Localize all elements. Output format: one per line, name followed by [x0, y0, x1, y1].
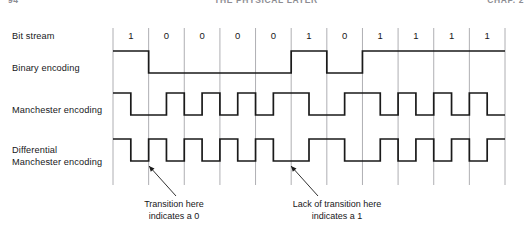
leader-line [149, 166, 176, 196]
waveform-manchester-encoding [113, 93, 505, 115]
figure-root: 94 THE PHYSICAL LAYER CHAP. 2 Bit stream… [0, 0, 532, 238]
annotation-transition-indicates-zero: Transition here indicates a 0 [116, 199, 232, 222]
annotation-leader-one [291, 166, 318, 196]
annotation-leader-zero [149, 166, 176, 196]
waveform-binary-encoding [113, 51, 505, 73]
annotation-lack-of-transition-indicates-one: Lack of transition here indicates a 1 [262, 199, 412, 222]
waveform-differential-manchester-encoding [113, 139, 505, 161]
leader-line [291, 166, 318, 196]
